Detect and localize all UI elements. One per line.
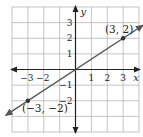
y-tick-label: −1 xyxy=(59,80,72,90)
tick-labels: −3−2123−2−1123yx(3, 2)(−3, −2) xyxy=(20,6,139,114)
x-tick-label: −2 xyxy=(36,73,49,83)
x-tick-label: 1 xyxy=(89,73,95,83)
x-tick-label: 3 xyxy=(120,73,126,83)
y-axis-label: y xyxy=(80,6,87,17)
point-annotation: (3, 2) xyxy=(105,23,133,35)
x-axis-label: x xyxy=(133,72,139,83)
point-annotation: (−3, −2) xyxy=(22,102,68,114)
x-tick-label: 2 xyxy=(104,73,110,83)
x-tick-label: −3 xyxy=(20,73,34,83)
coordinate-plane-chart: −3−2123−2−1123yx(3, 2)(−3, −2) xyxy=(0,0,143,137)
y-tick-label: 3 xyxy=(67,18,73,28)
y-tick-label: 2 xyxy=(67,33,73,43)
data-point xyxy=(121,36,125,40)
y-tick-label: 1 xyxy=(67,49,73,59)
